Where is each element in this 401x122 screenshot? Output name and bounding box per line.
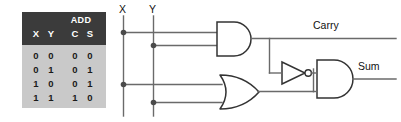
junction-dot-x-or bbox=[121, 82, 127, 88]
input-label-x: X bbox=[119, 3, 126, 15]
cell-y: 1 bbox=[45, 92, 57, 103]
cell-c: 1 bbox=[69, 92, 81, 103]
table-row: 1 1 1 0 bbox=[22, 92, 106, 106]
junction-dot-y-or bbox=[151, 100, 157, 106]
column-header-c: C bbox=[69, 28, 81, 39]
junction-dot-x-and bbox=[121, 30, 127, 36]
table-row: 1 0 0 1 bbox=[22, 78, 106, 92]
cell-c: 0 bbox=[69, 50, 81, 61]
half-adder-diagram: ADD X Y C S 0 0 0 0 0 1 0 1 1 bbox=[0, 0, 401, 122]
cell-s: 0 bbox=[84, 50, 96, 61]
column-header-x: X bbox=[30, 28, 42, 39]
not-gate-body bbox=[282, 62, 305, 84]
cell-y: 0 bbox=[45, 50, 57, 61]
cell-c: 0 bbox=[69, 78, 81, 89]
and-gate-carry-body bbox=[217, 22, 251, 56]
or-gate-body bbox=[220, 75, 259, 109]
truth-table-column-headers: X Y C S bbox=[22, 28, 106, 42]
cell-s: 1 bbox=[84, 64, 96, 75]
table-row: 0 1 0 1 bbox=[22, 64, 106, 78]
output-label-carry: Carry bbox=[313, 19, 339, 31]
junction-dot-y-and bbox=[151, 43, 157, 49]
truth-table: ADD X Y C S 0 0 0 0 0 1 0 1 1 bbox=[22, 12, 106, 108]
junction-dots bbox=[121, 30, 157, 106]
cell-x: 0 bbox=[30, 50, 42, 61]
cell-x: 1 bbox=[30, 92, 42, 103]
column-header-s: S bbox=[84, 28, 96, 39]
cell-s: 0 bbox=[84, 92, 96, 103]
and-gate-sum-body bbox=[317, 60, 353, 98]
not-gate-bubble bbox=[305, 70, 311, 76]
cell-s: 1 bbox=[84, 78, 96, 89]
column-header-y: Y bbox=[45, 28, 57, 39]
cell-x: 1 bbox=[30, 78, 42, 89]
truth-table-group-header: ADD bbox=[66, 15, 96, 25]
table-row: 0 0 0 0 bbox=[22, 50, 106, 64]
cell-y: 0 bbox=[45, 78, 57, 89]
input-label-y: Y bbox=[149, 3, 156, 15]
cell-x: 0 bbox=[30, 64, 42, 75]
output-label-sum: Sum bbox=[358, 60, 380, 72]
cell-c: 0 bbox=[69, 64, 81, 75]
cell-y: 1 bbox=[45, 64, 57, 75]
truth-table-header: ADD X Y C S bbox=[22, 12, 106, 45]
truth-table-body: 0 0 0 0 0 1 0 1 1 0 0 1 1 1 1 0 bbox=[22, 45, 106, 106]
